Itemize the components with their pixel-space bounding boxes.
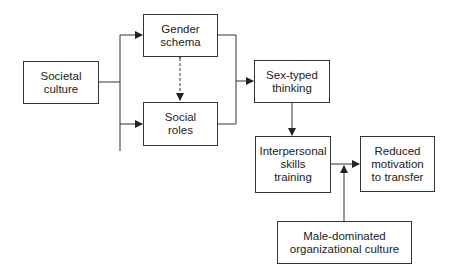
node-male-dominated-culture: Male-dominated organizational culture [277, 221, 412, 264]
node-societal-culture: Societal culture [23, 61, 99, 104]
node-interpersonal-skills-training: Interpersonal skills training [255, 136, 331, 193]
edge-merge [217, 35, 236, 124]
node-gender-schema: Gender schema [143, 14, 218, 57]
node-sex-typed-thinking: Sex-typed thinking [254, 60, 330, 103]
node-reduced-motivation: Reduced motivation to transfer [360, 136, 435, 192]
node-social-roles: Social roles [143, 102, 218, 146]
